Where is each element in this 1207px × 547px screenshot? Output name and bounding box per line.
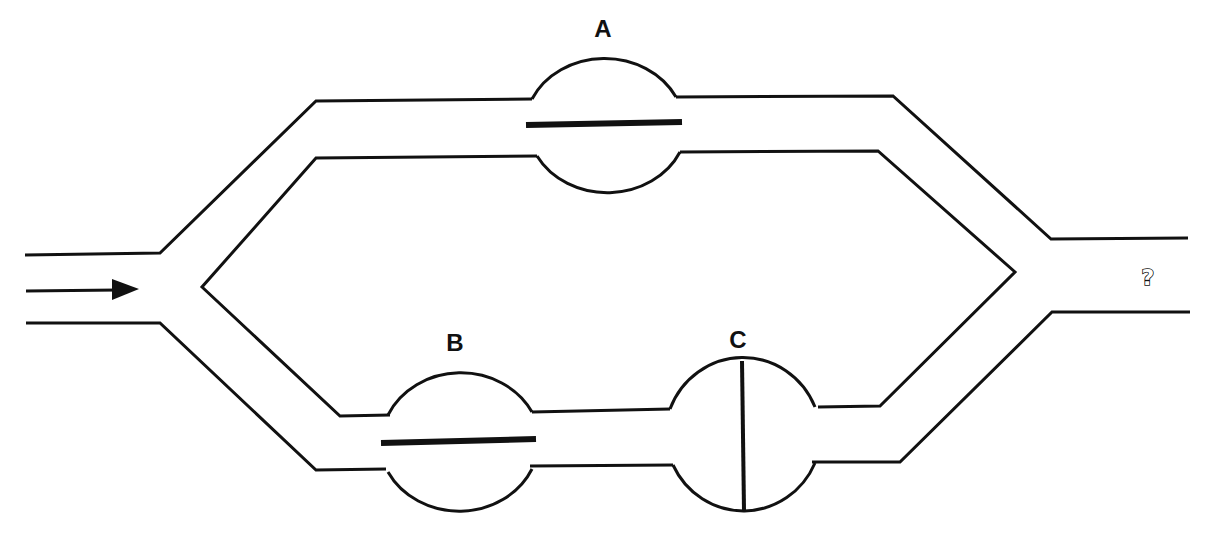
right-arrow-icon [26, 279, 139, 300]
inner-bottom-wall-mid [532, 409, 670, 412]
outer-bottom-mid-wall [530, 465, 673, 466]
outer-top-wall [25, 99, 532, 255]
inlet-pipe [25, 99, 532, 470]
outlet-question-mark: ? [1142, 265, 1155, 290]
valve-b-top-housing [388, 373, 532, 415]
outer-bottom-wall [26, 323, 386, 470]
inner-right-wall [680, 151, 1015, 407]
valve-a-top-housing [532, 58, 676, 99]
valve-a[interactable]: A [526, 15, 682, 193]
pipe-network-diagram: A B C ? [0, 0, 1207, 547]
valve-c[interactable]: C [670, 326, 815, 511]
valve-b-label: B [446, 329, 463, 356]
valve-b-disc [381, 439, 536, 443]
valve-c-disc [742, 361, 744, 510]
valve-a-bottom-housing [537, 152, 680, 193]
valve-a-label: A [594, 15, 611, 42]
valve-c-label: C [729, 326, 746, 353]
valve-b-bottom-housing [388, 469, 532, 511]
outer-top-right-wall [676, 96, 1188, 239]
valve-a-disc [526, 122, 682, 125]
outer-bottom-right-wall [812, 312, 1190, 462]
valve-b[interactable]: B [381, 329, 536, 511]
